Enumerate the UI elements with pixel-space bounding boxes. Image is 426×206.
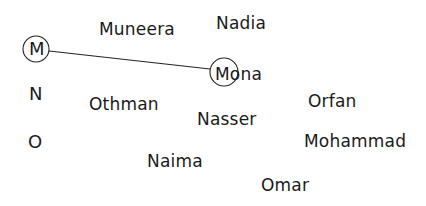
name-nadia[interactable]: Nadia — [216, 13, 266, 33]
name-muneera[interactable]: Muneera — [99, 19, 175, 39]
name-naima[interactable]: Naima — [147, 151, 203, 171]
connection-line-m-mona — [49, 51, 210, 69]
letter-m[interactable]: M — [29, 38, 45, 59]
letter-o[interactable]: O — [28, 131, 42, 152]
name-omar[interactable]: Omar — [261, 175, 309, 195]
name-othman[interactable]: Othman — [89, 94, 159, 114]
name-mona[interactable]: Mona — [215, 64, 262, 84]
letter-n[interactable]: N — [29, 83, 42, 104]
name-orfan[interactable]: Orfan — [308, 91, 357, 111]
connection-layer — [0, 0, 426, 206]
name-mohammad[interactable]: Mohammad — [304, 131, 406, 151]
name-nasser[interactable]: Nasser — [197, 109, 257, 129]
